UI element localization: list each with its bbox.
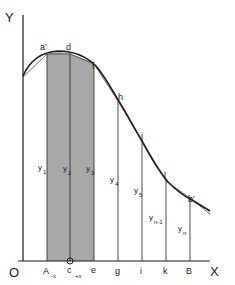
shaded-strip (47, 52, 94, 261)
svg-text:n: n (183, 230, 186, 236)
x-label-B: B (186, 266, 192, 276)
y-axis-label: Y (5, 10, 14, 25)
label-yn-1: y n-1 (149, 213, 163, 225)
x-label-k: k (163, 266, 168, 276)
svg-text:1: 1 (43, 169, 47, 175)
svg-text:y: y (134, 186, 138, 195)
x-label-g: g (115, 266, 120, 276)
x-label-A: A (43, 266, 49, 276)
label-yn: y n (178, 224, 186, 236)
x-label-plus-x: +x (75, 273, 82, 279)
origin-label: O (9, 265, 19, 280)
svg-text:y: y (149, 213, 153, 222)
svg-text:n-1: n-1 (154, 219, 163, 225)
svg-text:y: y (38, 163, 42, 172)
svg-text:y: y (86, 164, 90, 173)
x-label-c: c (67, 265, 72, 275)
point-j: j (140, 131, 143, 141)
x-label-e: e (91, 265, 96, 275)
label-y1: y 1 (38, 163, 47, 175)
point-h: h (118, 92, 123, 102)
svg-text:y: y (178, 224, 182, 233)
svg-text:y: y (110, 175, 114, 184)
x-label-minus-x: -x (51, 273, 56, 279)
area-diagram: Y X O a' d f h j l b' y 1 y 2 y 3 y 4 y … (0, 0, 235, 285)
point-d: d (66, 42, 71, 52)
point-f: f (92, 61, 95, 71)
x-label-i: i (140, 266, 142, 276)
x-axis-label: X (210, 264, 219, 279)
point-a-prime: a' (40, 42, 47, 52)
point-b-prime: b' (188, 194, 195, 204)
point-l: l (164, 171, 166, 181)
svg-text:y: y (63, 164, 67, 173)
